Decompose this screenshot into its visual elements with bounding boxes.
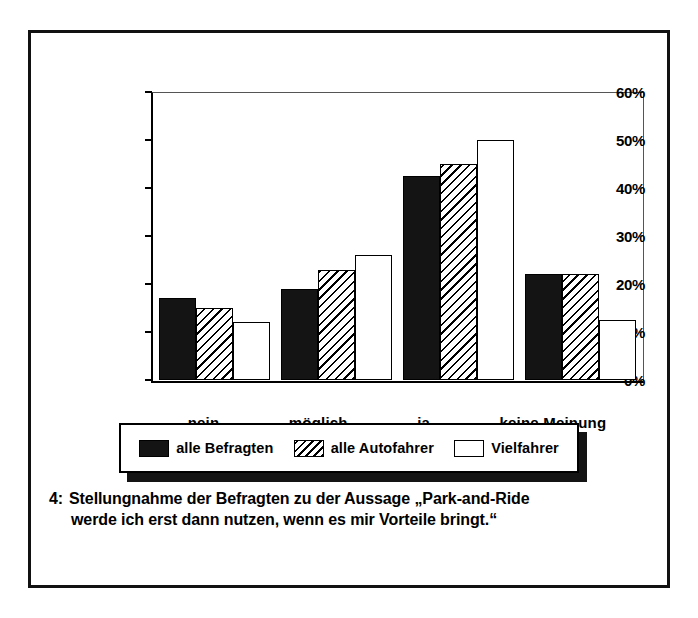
legend-item: alle Befragten: [139, 440, 273, 457]
caption-number: 4:: [49, 490, 63, 507]
bar: [159, 298, 196, 380]
bar-group: [403, 92, 514, 380]
diagonal-hatch-swatch: [294, 440, 324, 457]
legend-item: alle Autofahrer: [294, 440, 434, 457]
figure-frame: 0%10%20%30%40%50%60% neinmöglichjakeine …: [28, 30, 670, 588]
bar-group: [281, 92, 392, 380]
bar: [233, 322, 270, 380]
chart-legend: alle Befragtenalle AutofahrerVielfahrer: [119, 423, 579, 475]
y-axis-tick-mark: [145, 187, 152, 189]
figure-caption: 4:Stellungnahme der Befragten zu der Aus…: [49, 488, 649, 531]
legend-item-label: alle Befragten: [176, 440, 273, 456]
solid-black-swatch: [139, 440, 169, 457]
legend-item-label: alle Autofahrer: [331, 440, 434, 456]
bar: [525, 274, 562, 380]
bar: [599, 320, 636, 380]
caption-line-1: Stellungnahme der Befragten zu der Aussa…: [69, 490, 529, 507]
bar: [403, 176, 440, 380]
bar-group: [159, 92, 270, 380]
white-outline-swatch: [454, 440, 484, 457]
bar: [562, 274, 599, 380]
y-axis-tick-mark: [145, 283, 152, 285]
y-axis-tick-mark: [145, 331, 152, 333]
legend-box: alle Befragtenalle AutofahrerVielfahrer: [119, 423, 579, 473]
bar: [196, 308, 233, 380]
bar: [477, 140, 514, 380]
y-axis-tick-mark: [145, 379, 152, 381]
bar: [318, 270, 355, 380]
y-axis-tick-mark: [145, 235, 152, 237]
y-axis-tick-mark: [145, 91, 152, 93]
y-axis-tick-mark: [145, 139, 152, 141]
legend-item-label: Vielfahrer: [491, 440, 559, 456]
bar-groups: [153, 92, 641, 380]
bar: [355, 255, 392, 380]
bar-chart: 0%10%20%30%40%50%60% neinmöglichjakeine …: [83, 62, 645, 382]
bar: [281, 289, 318, 380]
legend-item: Vielfahrer: [454, 440, 559, 457]
bar: [440, 164, 477, 380]
bar-group: [525, 92, 636, 380]
caption-line-2: werde ich erst dann nutzen, wenn es mir …: [49, 509, 649, 530]
